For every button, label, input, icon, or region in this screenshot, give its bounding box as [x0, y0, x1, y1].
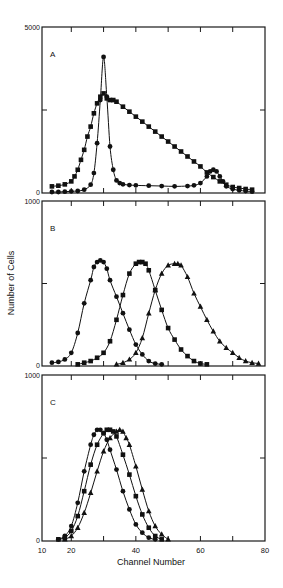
square-marker	[166, 139, 171, 144]
square-marker	[140, 512, 145, 517]
series-triangle	[114, 261, 262, 367]
square-marker	[121, 293, 126, 298]
circle-marker	[121, 489, 126, 494]
square-marker	[69, 529, 74, 534]
y-tick-label-zero: 0	[36, 537, 40, 544]
triangle-marker	[236, 355, 242, 360]
panel-b: 10000B	[24, 198, 265, 369]
y-tick-label-max: 5000	[24, 24, 40, 31]
circle-marker	[140, 530, 145, 535]
square-marker	[56, 537, 61, 542]
triangle-marker	[140, 335, 146, 340]
square-marker	[88, 359, 93, 364]
square-marker	[50, 184, 55, 189]
series-triangle	[62, 427, 171, 542]
square-marker	[79, 158, 84, 163]
circle-marker	[192, 183, 197, 188]
circle-marker	[146, 535, 151, 540]
triangle-marker	[204, 317, 210, 322]
triangle-marker	[146, 508, 152, 513]
series-line	[52, 93, 252, 189]
square-marker	[153, 129, 158, 134]
circle-marker	[75, 500, 80, 505]
circle-marker	[127, 507, 132, 512]
x-tick-label: 10	[38, 546, 46, 555]
circle-marker	[127, 183, 132, 188]
circle-marker	[146, 183, 151, 188]
square-marker	[146, 124, 151, 129]
series-circle	[50, 258, 165, 367]
triangle-marker	[94, 468, 100, 473]
square-marker	[121, 104, 126, 109]
x-tick-labels: 1020406080	[38, 546, 269, 555]
circle-marker	[153, 361, 158, 366]
circle-marker	[204, 174, 209, 179]
circle-marker	[91, 432, 96, 437]
square-marker	[143, 261, 148, 266]
circle-marker	[111, 167, 116, 172]
circle-marker	[50, 190, 55, 195]
square-marker	[159, 308, 164, 313]
triangle-marker	[133, 463, 139, 468]
y-axis-label: Number of Cells	[6, 250, 16, 315]
circle-marker	[133, 342, 138, 347]
circle-marker	[82, 187, 87, 192]
circle-marker	[146, 359, 151, 364]
circle-marker	[69, 189, 74, 194]
x-tick-label: 40	[132, 546, 140, 555]
triangle-marker	[165, 536, 171, 541]
square-marker	[121, 452, 126, 457]
square-marker	[243, 187, 248, 192]
circle-marker	[121, 182, 126, 187]
triangle-marker	[75, 525, 81, 530]
square-marker	[134, 494, 139, 499]
panel-c: 10000C	[24, 372, 265, 544]
circle-marker	[75, 331, 80, 336]
circle-marker	[56, 190, 61, 195]
square-marker	[172, 144, 177, 149]
triangle-marker	[198, 304, 204, 309]
circle-marker	[62, 189, 67, 194]
circle-marker	[108, 144, 113, 149]
circle-marker	[214, 169, 219, 174]
square-marker	[192, 359, 197, 364]
square-marker	[114, 318, 119, 323]
square-marker	[179, 149, 184, 154]
y-tick-label-max: 1000	[24, 198, 40, 205]
triangle-marker	[211, 328, 217, 333]
square-marker	[114, 99, 119, 104]
square-marker	[198, 164, 203, 169]
circle-marker	[91, 265, 96, 270]
square-marker	[95, 101, 100, 106]
square-marker	[114, 434, 119, 439]
square-marker	[82, 360, 87, 365]
square-marker	[140, 119, 145, 124]
circle-marker	[121, 311, 126, 316]
square-marker	[237, 186, 242, 191]
square-marker	[166, 326, 171, 331]
circle-marker	[82, 469, 87, 474]
square-marker	[127, 271, 132, 276]
square-marker	[211, 175, 216, 180]
square-marker	[172, 337, 177, 342]
circle-marker	[108, 278, 113, 283]
square-marker	[101, 91, 106, 96]
x-axis-label: Channel Number	[117, 557, 185, 567]
square-marker	[69, 179, 74, 184]
series-square	[75, 260, 209, 367]
triangle-marker	[88, 490, 94, 495]
square-marker	[82, 148, 87, 153]
triangle-marker	[140, 487, 146, 492]
square-marker	[82, 489, 87, 494]
circle-marker	[172, 184, 177, 189]
panels: 50000A10000B10000C	[24, 24, 265, 544]
square-marker	[159, 537, 164, 542]
circle-marker	[88, 182, 93, 187]
panel-label: A	[50, 50, 56, 59]
square-marker	[56, 183, 61, 188]
square-marker	[159, 134, 164, 139]
x-tick-label: 80	[261, 546, 269, 555]
square-marker	[92, 111, 97, 116]
series-square	[50, 91, 255, 192]
circle-marker	[104, 266, 109, 271]
